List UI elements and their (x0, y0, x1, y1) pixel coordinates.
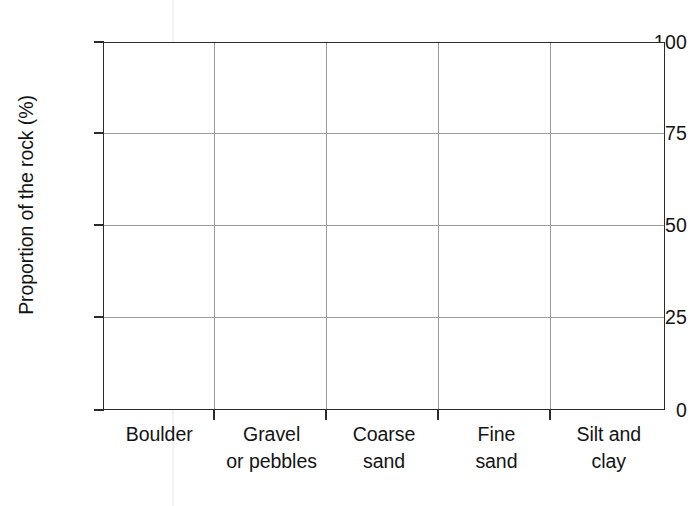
x-tick-mark-4 (549, 410, 551, 420)
x-category-boulder: Boulder (103, 421, 215, 491)
x-category-silt-line1: Silt and (577, 423, 642, 445)
x-tick-mark-3 (437, 410, 439, 420)
gridline-vertical-3 (438, 43, 439, 409)
y-tick-label-50-text: 50 (665, 214, 696, 237)
y-tick-label-25-text: 25 (665, 306, 696, 329)
x-axis-category-labels: Boulder Gravel or pebbles Coarse sand Fi… (103, 421, 665, 491)
x-category-fine-line1: Fine (478, 423, 516, 445)
gridline-vertical-2 (326, 43, 327, 409)
x-category-gravel-line2: or pebbles (215, 448, 327, 475)
gridline-vertical-4 (550, 43, 551, 409)
x-category-gravel-line1: Gravel (243, 423, 300, 445)
x-category-silt-line2: clay (553, 448, 665, 475)
y-tick-label-75-text: 75 (665, 122, 696, 145)
x-category-silt-and-clay: Silt and clay (553, 421, 665, 491)
x-tick-mark-1 (213, 410, 215, 420)
gridline-horizontal-25 (104, 317, 664, 318)
chart-figure: Proportion of the rock (%) 100 75 50 25 … (0, 0, 696, 506)
plot-area (103, 42, 665, 410)
gridline-horizontal-75 (104, 133, 664, 134)
x-category-fine-line2: sand (440, 448, 552, 475)
y-axis-title: Proportion of the rock (%) (0, 0, 52, 410)
x-category-boulder-line1: Boulder (126, 423, 193, 445)
x-category-fine-sand: Fine sand (440, 421, 552, 491)
x-category-coarse-line1: Coarse (353, 423, 416, 445)
x-tick-mark-2 (325, 410, 327, 420)
x-category-coarse-line2: sand (328, 448, 440, 475)
x-category-gravel-or-pebbles: Gravel or pebbles (215, 421, 327, 491)
gridline-vertical-1 (214, 43, 215, 409)
x-category-coarse-sand: Coarse sand (328, 421, 440, 491)
y-tick-label-0-text: 0 (676, 399, 696, 422)
gridline-horizontal-50 (104, 225, 664, 226)
